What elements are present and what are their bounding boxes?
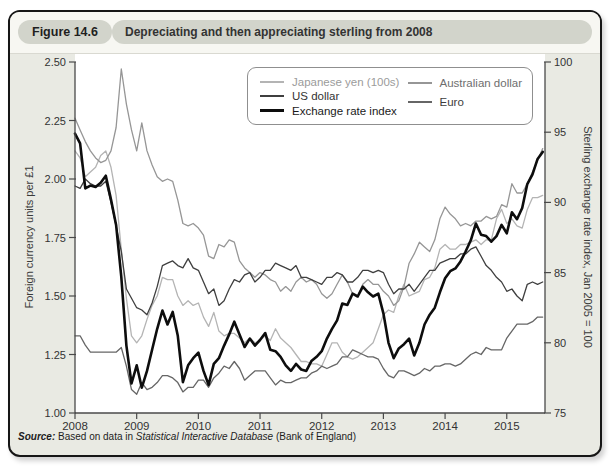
- legend-item-japanese-yen: Japanese yen (100s): [260, 75, 408, 89]
- japanese-yen-line-swatch: [260, 81, 284, 83]
- right-tick-label: 90: [554, 196, 566, 208]
- left-tick-label: 2.00: [45, 173, 66, 185]
- left-tick-label: 1.00: [45, 407, 66, 419]
- legend-item-us-dollar: US dollar: [260, 89, 408, 103]
- exchange-rate-index-line-swatch: [260, 109, 284, 112]
- legend-item-exchange-rate-index: Exchange rate index: [260, 104, 408, 118]
- legend-column-1: Japanese yen (100s) US dollar Exchange r…: [260, 75, 408, 118]
- x-tick-label: 2015: [494, 420, 520, 432]
- left-tick-label: 2.50: [45, 56, 66, 68]
- right-tick-label: 75: [554, 407, 566, 419]
- right-tick-label: 80: [554, 337, 566, 349]
- euro-line-swatch: [408, 101, 432, 103]
- right-tick-label: 100: [554, 56, 572, 68]
- figure-page: Figure 14.6 Depreciating and then apprec…: [0, 0, 612, 467]
- australian-dollar-line-swatch: [408, 82, 432, 84]
- left-tick-label: 1.75: [45, 232, 66, 244]
- legend-item-euro: Euro: [408, 94, 522, 109]
- right-axis-title: Sterling exchange rate index, Jan 2005 =…: [582, 126, 594, 348]
- left-tick-label: 1.50: [45, 290, 66, 302]
- source-note: Source: Based on data in Statistical Int…: [18, 431, 356, 442]
- legend-box: Japanese yen (100s) US dollar Exchange r…: [247, 67, 533, 125]
- legend-column-2: Australian dollar Euro: [408, 75, 522, 118]
- x-tick-label: 2013: [371, 420, 397, 432]
- left-tick-label: 2.25: [45, 115, 66, 127]
- legend-item-australian-dollar: Australian dollar: [408, 75, 522, 90]
- left-tick-label: 1.25: [45, 349, 66, 361]
- us-dollar-line-swatch: [260, 95, 284, 97]
- x-tick-label: 2014: [432, 420, 458, 432]
- source-database-name: Statistical Interactive Database: [136, 431, 273, 442]
- source-body: Based on data in: [55, 431, 136, 442]
- source-suffix: (Bank of England): [273, 431, 356, 442]
- right-tick-label: 95: [554, 126, 566, 138]
- right-tick-label: 85: [554, 267, 566, 279]
- source-prefix: Source:: [18, 431, 55, 442]
- left-axis-title: Foreign currency units per £1: [23, 165, 35, 308]
